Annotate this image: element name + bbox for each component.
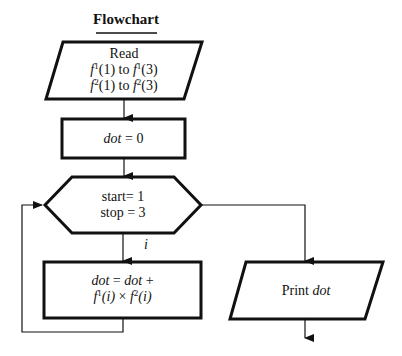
read-range-f1: f1(1) to f1(3) xyxy=(63,62,185,78)
read-node-text: Read f1(1) to f1(3) f2(1) to f2(3) xyxy=(63,46,185,94)
body-node-text: dot = dot + f1(i) × f2(i) xyxy=(44,273,201,305)
print-node-text: Print dot xyxy=(246,283,366,299)
loop-start: start= 1 xyxy=(72,189,174,205)
loop-index-label: i xyxy=(140,237,152,253)
body-line-2: f1(i) × f2(i) xyxy=(44,289,201,305)
init-node-text: dot = 0 xyxy=(62,131,185,147)
loop-stop: stop = 3 xyxy=(72,205,174,221)
loop-return-line xyxy=(22,205,123,332)
read-range-f2: f2(1) to f2(3) xyxy=(63,78,185,94)
loop-node-text: start= 1 stop = 3 xyxy=(72,189,174,221)
page-title: Flowchart xyxy=(93,11,159,28)
body-line-1: dot = dot + xyxy=(44,273,201,289)
read-label: Read xyxy=(63,46,185,62)
loop-exit-line xyxy=(201,205,305,261)
